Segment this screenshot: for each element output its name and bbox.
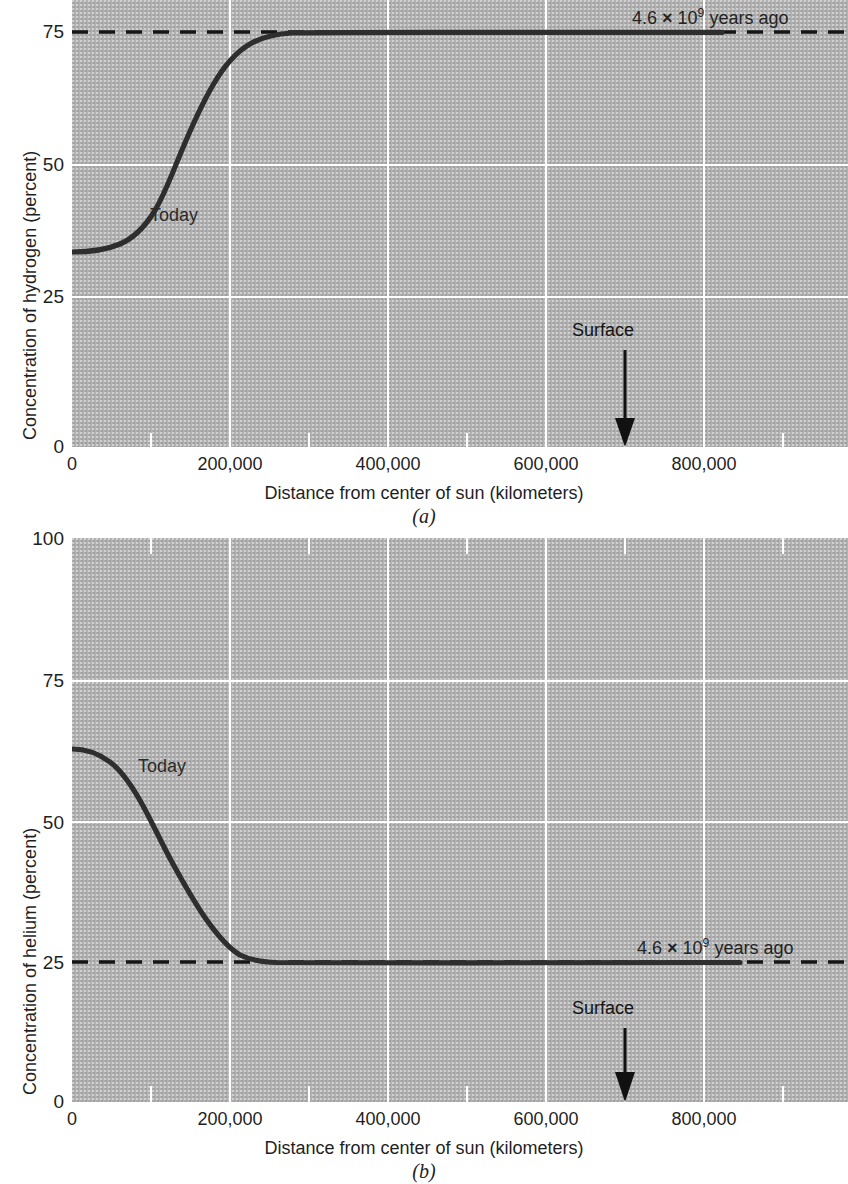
panel-b-ytick-50: 50	[43, 813, 64, 832]
panel-a-ytick-25: 25	[43, 287, 64, 306]
panel-b-caption: (b)	[0, 1160, 848, 1183]
panel-a-ancient-suffix: years ago	[704, 8, 788, 28]
panel-a-ancient-prefix: 4.6	[632, 8, 662, 28]
panel-b-ancient-suffix: years ago	[709, 938, 793, 958]
panel-a-xtick-0: 0	[67, 455, 77, 473]
panel-b-ytick-0: 0	[53, 1092, 64, 1111]
panel-a-vertical-gridlines	[230, 0, 704, 447]
panel-a-horizontal-gridlines	[72, 165, 848, 297]
panel-a-surface-text: Surface	[572, 320, 634, 340]
panel-a-xtick-400000: 400,000	[355, 455, 420, 473]
panel-a-plot-area: Today Surface	[72, 0, 848, 447]
panel-b-horizontal-gridlines	[72, 681, 848, 822]
panel-a-today-label: Today	[150, 205, 198, 226]
panel-a-ancient-times-icon: ×	[662, 8, 673, 28]
panel-a-ytick-0: 0	[53, 437, 64, 456]
panel-a-xtick-800000: 800,000	[671, 455, 736, 473]
panel-b-minor-ticks	[151, 538, 783, 1102]
panel-b-ancient-base: 10	[678, 938, 703, 958]
panel-b-ytick-100: 100	[32, 529, 64, 548]
panel-b-ancient-label: 4.6 × 109 years ago	[637, 936, 793, 959]
panel-a-xlabel: Distance from center of sun (kilometers)	[0, 483, 848, 504]
panel-b-ytick-75: 75	[43, 671, 64, 690]
panel-b-plot-area: Today Surface 4.6 × 109 years ago	[72, 538, 848, 1102]
panel-a-minor-ticks	[151, 433, 783, 447]
panel-a-ancient-label: 4.6 × 109 years ago	[632, 6, 788, 29]
panel-b-surface-arrow	[615, 1028, 635, 1102]
panel-a-ytick-75: 75	[43, 22, 64, 41]
panel-a-surface-label: Surface	[572, 320, 634, 341]
panel-a-xtick-600000: 600,000	[513, 455, 578, 473]
panel-a-surface-arrow	[615, 350, 635, 447]
panel-b-today-label: Today	[138, 756, 186, 777]
panel-b-surface-label: Surface	[572, 998, 634, 1019]
panel-b-xtick-0: 0	[67, 1110, 77, 1128]
panel-b-ancient-prefix: 4.6	[637, 938, 667, 958]
panel-b: Today Surface 4.6 × 109 years ago 100 75…	[0, 520, 848, 1184]
panel-b-xtick-800000: 800,000	[671, 1110, 736, 1128]
panel-a: Today Surface 4.6 × 109 years ago 75 50 …	[0, 0, 848, 520]
panel-b-xlabel: Distance from center of sun (kilometers)	[0, 1138, 848, 1159]
panel-b-ytick-25: 25	[43, 953, 64, 972]
panel-b-ylabel: Concentration of helium (percent)	[20, 828, 41, 1095]
panel-b-today-curve	[72, 749, 740, 963]
panel-b-plot-svg	[72, 538, 848, 1102]
panel-a-ytick-50: 50	[43, 155, 64, 174]
panel-a-ancient-base: 10	[673, 8, 698, 28]
panel-b-surface-text: Surface	[572, 998, 634, 1018]
panel-a-ylabel: Concentration of hydrogen (percent)	[20, 151, 41, 440]
panel-b-xtick-200000: 200,000	[197, 1110, 262, 1128]
panel-b-xtick-400000: 400,000	[355, 1110, 420, 1128]
panel-b-ancient-times-icon: ×	[667, 938, 678, 958]
panel-a-xtick-200000: 200,000	[197, 455, 262, 473]
panel-b-xtick-600000: 600,000	[513, 1110, 578, 1128]
